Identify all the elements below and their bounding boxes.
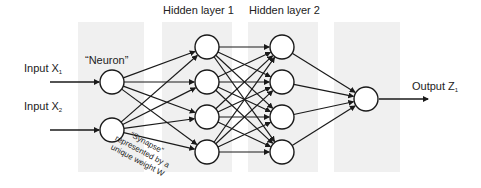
hidden1-neuron-4 [195,140,219,164]
input-neuron-1 [100,70,124,94]
hidden2-neuron-4 [270,140,294,164]
hidden-layer-2-label: Hidden layer 2 [249,4,320,16]
input-1-label: Input X1 [24,62,62,75]
neural-network-diagram [0,0,481,188]
input-2-text: Input X [24,100,59,112]
hidden1-neuron-3 [195,105,219,129]
output-label: Output Z1 [412,80,458,93]
output-neuron-1 [354,87,378,111]
hidden2-neuron-3 [270,105,294,129]
hidden1-neuron-2 [195,70,219,94]
hidden2-neuron-2 [270,70,294,94]
input-1-text: Input X [24,62,59,74]
input-2-subscript: 2 [59,107,62,113]
output-text: Output Z [412,80,455,92]
hidden2-neuron-1 [270,35,294,59]
hidden-layer-1-label: Hidden layer 1 [163,4,234,16]
neuron-label: “Neuron” [85,54,128,66]
output-subscript: 1 [455,87,458,93]
hidden1-neuron-1 [195,35,219,59]
input-1-subscript: 1 [59,69,62,75]
input-2-label: Input X2 [24,100,62,113]
